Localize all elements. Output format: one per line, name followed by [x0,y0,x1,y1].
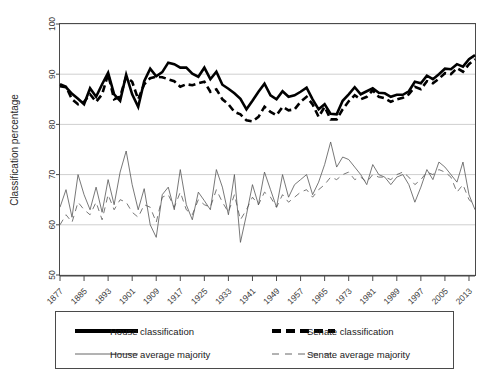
x-tick-label-1965: 1965 [309,286,330,307]
gridlines [60,24,475,275]
x-tick-label-1893: 1893 [93,286,114,307]
x-tick-label-1917: 1917 [165,286,186,307]
y-axis-title: Classification percentage [9,94,20,206]
legend-label-house-classification: House classification [110,326,194,337]
legend-label-senate-average-majority: Senate average majority [307,349,410,360]
legend-label-house-average-majority: House average majority [110,349,211,360]
x-tick-label-1885: 1885 [69,286,90,307]
series-house-average-majority [60,142,475,242]
classification-percentage-line-chart: 5060708090100 18771885189319011909191719… [0,0,490,385]
x-tick-label-1925: 1925 [189,286,210,307]
x-tick-label-1981: 1981 [357,286,378,307]
x-tick-label-1973: 1973 [333,286,354,307]
chart-figure: 5060708090100 18771885189319011909191719… [0,0,490,385]
legend-label-senate-classification: Senate classification [307,326,394,337]
x-tick-label-1949: 1949 [261,286,282,307]
legend-box [56,312,454,369]
x-axis-ticks: 1877188518931901190919171925193319411949… [45,276,475,306]
x-tick-label-1933: 1933 [213,286,234,307]
y-tick-label-70: 70 [47,170,57,180]
x-tick-label-2005: 2005 [430,286,451,307]
series-house-classification [60,55,475,114]
y-tick-label-100: 100 [47,17,57,31]
x-tick-label-1877: 1877 [45,286,66,307]
x-tick-label-1957: 1957 [285,286,306,307]
y-tick-label-80: 80 [47,119,57,129]
data-series [60,55,475,242]
y-axis-ticks: 5060708090100 [47,17,60,280]
x-tick-label-2013: 2013 [454,286,475,307]
y-tick-label-60: 60 [47,220,57,230]
x-tick-label-1909: 1909 [141,286,162,307]
x-tick-label-1989: 1989 [381,286,402,307]
plot-area-border [60,24,476,276]
x-tick-label-1997: 1997 [405,286,426,307]
x-tick-label-1901: 1901 [117,286,138,307]
y-tick-label-90: 90 [47,69,57,79]
y-tick-label-50: 50 [47,270,57,280]
x-tick-label-1941: 1941 [237,286,258,307]
